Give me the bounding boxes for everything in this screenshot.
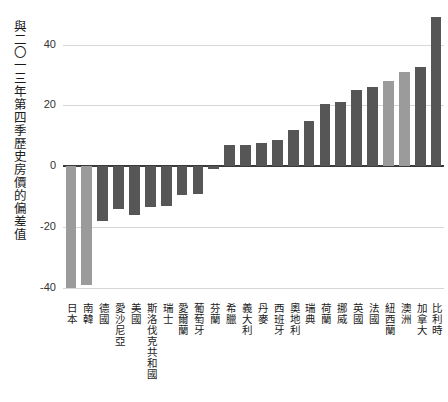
bar — [288, 130, 299, 167]
x-axis-category-labels: 日本南韓德國愛沙尼亞美國斯洛伐克共和國瑞士愛爾蘭葡萄牙芬蘭希臘義大利丹麥西班牙奧… — [63, 303, 444, 399]
bar — [113, 166, 124, 209]
bar — [224, 145, 235, 166]
bar — [177, 166, 188, 195]
x-tick-label: 葡萄牙 — [192, 303, 203, 336]
x-tick-label: 日本 — [65, 303, 76, 325]
y-tick--40: -40 — [10, 281, 56, 293]
bar — [66, 166, 77, 288]
bar — [193, 166, 204, 193]
bar — [304, 121, 315, 167]
bar — [351, 90, 362, 166]
bar — [431, 17, 442, 166]
bar — [256, 143, 267, 166]
x-tick-label: 義大利 — [240, 303, 251, 336]
x-tick-label: 南韓 — [81, 303, 92, 325]
x-tick-label: 紐西蘭 — [383, 303, 394, 336]
bar — [145, 166, 156, 207]
bar — [335, 102, 346, 166]
x-tick-label: 英國 — [351, 303, 362, 325]
x-tick-label: 比利時 — [431, 303, 442, 336]
bar — [161, 166, 172, 206]
x-tick-label: 斯洛伐克共和國 — [145, 303, 156, 380]
x-tick-label: 愛爾蘭 — [177, 303, 188, 336]
y-tick-20: 20 — [10, 98, 56, 110]
x-tick-label: 奧地利 — [288, 303, 299, 336]
bar — [320, 104, 331, 166]
x-tick-label: 德國 — [97, 303, 108, 325]
x-tick-label: 丹麥 — [256, 303, 267, 325]
x-tick-label: 加拿大 — [415, 303, 426, 336]
x-tick-label: 芬蘭 — [208, 303, 219, 325]
x-tick-label: 澳洲 — [399, 303, 410, 325]
bar — [272, 140, 283, 166]
x-tick-label: 挪威 — [335, 303, 346, 325]
y-tick-40: 40 — [10, 38, 56, 50]
bar — [208, 166, 219, 169]
y-tick--20: -20 — [10, 220, 56, 232]
bar — [367, 87, 378, 166]
x-tick-label: 希臘 — [224, 303, 235, 325]
x-tick-label: 愛沙尼亞 — [113, 303, 124, 347]
bars-group — [63, 8, 444, 300]
bar — [415, 67, 426, 166]
x-tick-label: 西班牙 — [272, 303, 283, 336]
x-tick-label: 法國 — [367, 303, 378, 325]
bar — [240, 145, 251, 166]
deviation-bar-chart: 與二〇一三年第四季歷史房價的偏差值 40200-20-40 日本南韓德國愛沙尼亞… — [0, 0, 448, 402]
bar — [81, 166, 92, 285]
x-tick-label: 美國 — [129, 303, 140, 325]
plot-area — [63, 8, 444, 300]
x-tick-label: 荷蘭 — [319, 303, 330, 325]
bar — [129, 166, 140, 215]
bar — [383, 81, 394, 166]
y-tick-0: 0 — [10, 159, 56, 171]
bar — [97, 166, 108, 221]
bar — [399, 72, 410, 166]
x-tick-label: 瑞典 — [304, 303, 315, 325]
x-tick-label: 瑞士 — [161, 303, 172, 325]
